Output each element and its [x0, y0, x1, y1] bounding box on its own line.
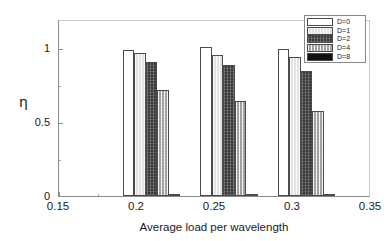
bar-d4-x02	[157, 90, 169, 196]
bar-d8-x025	[246, 194, 258, 196]
legend-swatch-d0	[307, 18, 333, 26]
legend-swatch-d8	[307, 53, 333, 61]
bar-d1-x02	[134, 53, 146, 196]
legend-swatch-d1	[307, 27, 333, 35]
bar-d4-x03	[312, 111, 324, 196]
legend-label-d8: D=8	[337, 53, 350, 61]
x-tick-label-015: 0.15	[47, 200, 69, 212]
x-tick-label-025: 0.25	[203, 200, 225, 212]
legend-label-d2: D=2	[337, 35, 350, 43]
y-tick-label-0: 0	[20, 190, 50, 202]
bar-d1-x025	[212, 55, 224, 196]
y-tick-major-1	[59, 49, 63, 50]
legend-item-d1: D=1	[307, 27, 363, 36]
bar-d0-x025	[200, 47, 212, 196]
bar-d2-x03	[301, 71, 313, 196]
y-tick-minor-075	[59, 86, 61, 87]
legend-label-d4: D=4	[337, 44, 350, 52]
bar-d8-x02	[169, 194, 181, 196]
legend-swatch-d2	[307, 35, 333, 43]
bar-d0-x03	[278, 49, 290, 196]
y-tick-label-1: 1	[20, 42, 50, 54]
y-tick-major-05	[59, 123, 63, 124]
bar-d0-x02	[123, 50, 135, 196]
y-tick-label-05: 0.5	[12, 116, 50, 128]
bar-d2-x025	[223, 65, 235, 196]
legend-label-d0: D=0	[337, 18, 350, 26]
bar-d2-x02	[146, 62, 158, 196]
y-tick-minor-025	[59, 160, 61, 161]
legend-item-d2: D=2	[307, 35, 363, 44]
legend-item-d8: D=8	[307, 52, 363, 61]
legend-item-d4: D=4	[307, 44, 363, 53]
bar-d4-x025	[235, 101, 247, 196]
legend-item-d0: D=0	[307, 18, 363, 27]
x-tick-minor-0175	[98, 194, 99, 196]
legend-label-d1: D=1	[337, 27, 350, 35]
x-tick-label-03: 0.3	[284, 200, 300, 212]
x-axis-title: Average load per wavelength	[58, 221, 370, 233]
y-axis-title: η	[19, 94, 28, 110]
bar-d1-x03	[289, 57, 301, 196]
legend: D=0 D=1 D=2 D=4 D=8	[304, 15, 366, 63]
x-tick-major-015	[59, 192, 60, 196]
chart-figure: η 1 0.5 0 0.15 0.2 0.25 0.3 0.35 Average…	[0, 0, 392, 241]
x-tick-label-02: 0.2	[128, 200, 144, 212]
x-tick-label-035: 0.35	[359, 200, 381, 212]
bar-d8-x03	[324, 194, 336, 196]
legend-swatch-d4	[307, 44, 333, 52]
